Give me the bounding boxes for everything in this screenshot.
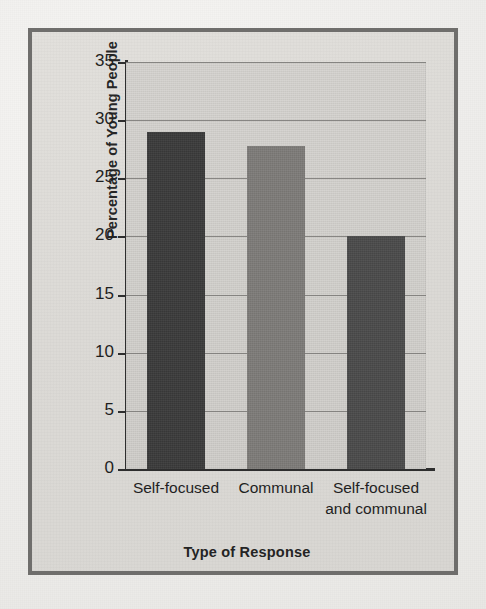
y-axis-tick-label: 20 bbox=[70, 225, 114, 245]
y-axis-tick-mark bbox=[118, 295, 125, 297]
bar-texture bbox=[147, 132, 205, 469]
bar bbox=[347, 236, 405, 469]
y-axis-tick-label: 25 bbox=[70, 167, 114, 187]
y-axis-tick-mark bbox=[118, 469, 125, 471]
y-axis-tick-label: 10 bbox=[70, 342, 114, 362]
y-axis-tick-label: 15 bbox=[70, 284, 114, 304]
figure-frame: Percentage of Young People 0510152025303… bbox=[28, 28, 458, 575]
y-axis-tick-mark bbox=[118, 120, 125, 122]
y-axis-tick-label: 5 bbox=[70, 400, 114, 420]
x-axis-tick-labels: Self-focusedCommunalSelf-focused and com… bbox=[126, 478, 426, 548]
x-axis-tick-label: Communal bbox=[218, 478, 334, 499]
y-axis-tick-mark bbox=[118, 62, 125, 64]
x-axis-tick-label: Self-focused and communal bbox=[318, 478, 434, 520]
x-axis-tick-label: Self-focused bbox=[118, 478, 234, 499]
y-axis-tick-mark bbox=[118, 411, 125, 413]
y-axis-tick-mark bbox=[118, 178, 125, 180]
gridline bbox=[126, 62, 426, 63]
bar-texture bbox=[347, 236, 405, 469]
bar bbox=[147, 132, 205, 469]
y-axis-tick-label: 0 bbox=[70, 458, 114, 478]
y-axis-tick-mark bbox=[118, 353, 125, 355]
bar-texture bbox=[247, 146, 305, 469]
y-axis-tick-label: 35 bbox=[70, 51, 114, 71]
plot-area bbox=[126, 62, 426, 469]
x-axis-title: Type of Response bbox=[32, 544, 462, 560]
y-axis-tick-labels: 05101520253035 bbox=[62, 32, 114, 579]
bar bbox=[247, 146, 305, 469]
y-axis-tick-label: 30 bbox=[70, 109, 114, 129]
gridline bbox=[126, 120, 426, 121]
page-background: Percentage of Young People 0510152025303… bbox=[0, 0, 486, 609]
y-axis-tick-mark bbox=[118, 236, 125, 238]
